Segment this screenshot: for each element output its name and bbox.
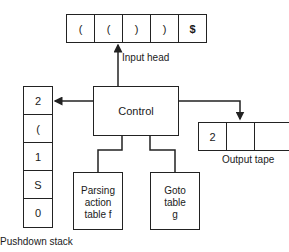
goto-table-line: Goto	[164, 185, 186, 197]
parsing-table-line: Parsing	[81, 185, 115, 197]
parsing-table-line: table f	[81, 209, 115, 221]
stack-cell: (	[23, 114, 53, 143]
pushdown-stack-label: Pushdown stack	[0, 236, 73, 247]
stack-cell: 1	[23, 142, 53, 171]
parsing-action-table: Parsing action table f	[73, 172, 123, 230]
stack-cell: 2	[23, 86, 53, 115]
stack-cell: S	[23, 170, 53, 199]
parsing-table-line: action	[81, 197, 115, 209]
input-cell: (	[66, 14, 95, 43]
control-box: Control	[93, 86, 179, 136]
output-cell	[226, 122, 255, 151]
output-cell: 2	[198, 122, 227, 151]
output-cell	[254, 122, 289, 151]
control-label: Control	[118, 105, 153, 117]
goto-table-line: g	[164, 209, 186, 221]
output-tape-label: Output tape	[222, 154, 274, 165]
input-cell: )	[150, 14, 179, 43]
input-cell: )	[122, 14, 151, 43]
input-cell: $	[178, 14, 207, 43]
goto-table: Goto table g	[150, 172, 200, 230]
stack-cell: 0	[23, 198, 53, 228]
input-cell: (	[94, 14, 123, 43]
goto-table-line: table	[164, 197, 186, 209]
input-head-label: Input head	[122, 52, 169, 63]
